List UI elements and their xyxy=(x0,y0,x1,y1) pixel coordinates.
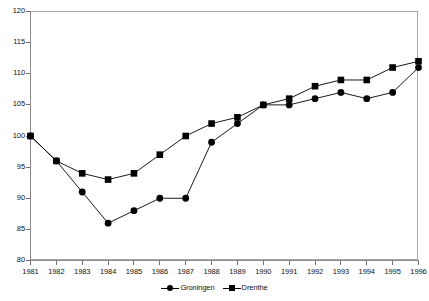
legend-label-groningen: Groningen xyxy=(180,283,214,293)
legend-label-drenthe: Drenthe xyxy=(242,283,268,293)
chart-legend: Groningen Drenthe xyxy=(0,283,429,293)
y-axis-tick-label: 115 xyxy=(0,38,25,46)
x-axis-tick-label: 1996 xyxy=(404,267,429,276)
y-axis-tick xyxy=(26,167,30,168)
x-axis-tick xyxy=(211,261,212,265)
y-axis-line xyxy=(30,11,31,261)
x-axis-tick xyxy=(185,261,186,265)
x-axis-tick xyxy=(366,261,367,265)
y-axis-tick-label: 105 xyxy=(0,100,25,108)
x-axis-tick xyxy=(133,261,134,265)
y-axis-tick xyxy=(26,104,30,105)
square-marker-icon xyxy=(223,284,241,293)
y-axis-tick-label: 95 xyxy=(0,163,25,171)
y-axis-tick xyxy=(26,229,30,230)
x-axis-tick xyxy=(340,261,341,265)
x-axis-tick xyxy=(418,261,419,265)
line-chart: 80859095100105110115120 1981198219831984… xyxy=(0,0,429,301)
y-axis-tick xyxy=(26,42,30,43)
x-axis-tick xyxy=(237,261,238,265)
x-axis-tick xyxy=(263,261,264,265)
y-axis-tick xyxy=(26,198,30,199)
plot-area xyxy=(30,11,418,260)
x-axis-tick xyxy=(56,261,57,265)
x-axis-tick xyxy=(108,261,109,265)
y-axis-tick xyxy=(26,11,30,12)
y-axis-tick-label: 120 xyxy=(0,7,25,15)
x-axis-tick xyxy=(82,261,83,265)
x-axis-tick xyxy=(315,261,316,265)
y-axis-tick-label: 90 xyxy=(0,194,25,202)
y-axis-tick-label: 110 xyxy=(0,69,25,77)
y-axis-tick-label: 80 xyxy=(0,256,25,264)
legend-item-drenthe: Drenthe xyxy=(223,283,268,293)
x-axis-tick xyxy=(30,261,31,265)
y-axis-tick xyxy=(26,73,30,74)
circle-marker-icon xyxy=(161,284,179,293)
y-axis-tick-label: 100 xyxy=(0,132,25,140)
x-axis-tick xyxy=(289,261,290,265)
y-axis-tick-label: 85 xyxy=(0,225,25,233)
x-axis-tick xyxy=(392,261,393,265)
x-axis-line xyxy=(30,260,419,261)
y-axis-tick xyxy=(26,136,30,137)
legend-item-groningen: Groningen xyxy=(161,283,214,293)
x-axis-tick xyxy=(159,261,160,265)
